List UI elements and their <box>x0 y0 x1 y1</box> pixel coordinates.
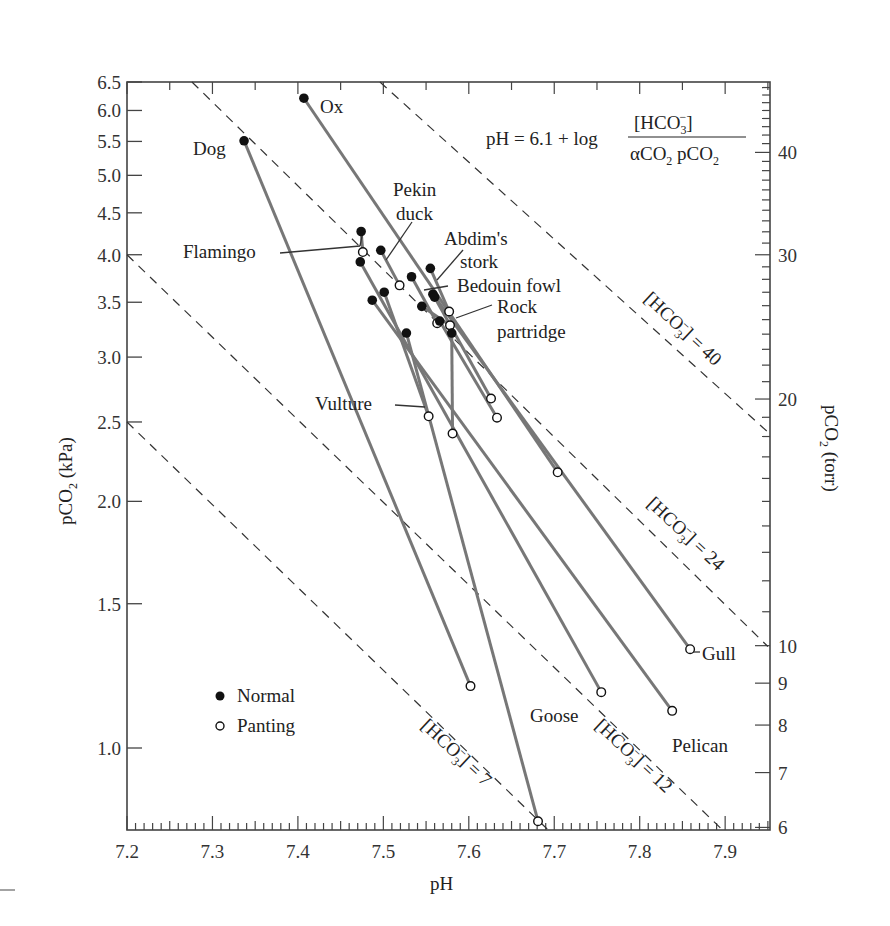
isopleth-label-12: [HCO3−] = 12 <box>589 714 678 800</box>
y-axis-title-right: pCO2 (torr) <box>817 405 842 492</box>
svg-text:7.3: 7.3 <box>201 841 225 862</box>
svg-text:2.0: 2.0 <box>97 491 121 512</box>
label-bedouin-fowl: Bedouin fowl <box>457 275 561 296</box>
legend-normal-marker <box>216 692 225 701</box>
panting-point <box>487 394 496 403</box>
isopleth-lines <box>127 82 768 830</box>
svg-text:8: 8 <box>778 715 788 736</box>
label-goose: Goose <box>530 705 579 726</box>
label-abdims-stork: Abdim's <box>444 228 508 249</box>
legend: Normal Panting <box>216 685 296 736</box>
svg-text:7.6: 7.6 <box>457 841 481 862</box>
label-gull: Gull <box>702 643 736 664</box>
svg-text:10: 10 <box>778 636 797 657</box>
legend-panting-marker <box>216 722 224 730</box>
panting-point <box>448 429 457 438</box>
label-vulture: Vulture <box>315 393 372 414</box>
svg-text:5.5: 5.5 <box>97 131 121 152</box>
panting-point <box>466 682 475 691</box>
panting-point <box>534 817 543 826</box>
chart: 7.27.37.47.57.67.77.87.91.01.52.02.53.03… <box>0 0 890 926</box>
x-axis-title: pH <box>430 873 454 894</box>
svg-text:7.5: 7.5 <box>371 841 395 862</box>
label-flamingo: Flamingo <box>183 241 256 262</box>
label-rock-partridge: Rock <box>497 296 538 317</box>
svg-text:6: 6 <box>778 817 788 838</box>
svg-text:[HCO3−]: [HCO3−] <box>634 110 693 137</box>
panting-point <box>553 468 562 477</box>
svg-text:7.4: 7.4 <box>286 841 310 862</box>
normal-point <box>379 287 389 297</box>
legend-normal-label: Normal <box>237 685 295 706</box>
svg-text:7.2: 7.2 <box>115 841 139 862</box>
svg-text:7: 7 <box>778 763 788 784</box>
plot-frame <box>127 82 770 830</box>
panting-point <box>597 688 606 697</box>
label-pekin-duck-2: duck <box>396 203 433 224</box>
label-dog: Dog <box>193 138 226 159</box>
svg-text:4.0: 4.0 <box>97 245 121 266</box>
normal-point <box>407 272 417 282</box>
y-axis-title-left: pCO2 (kPa) <box>55 437 80 525</box>
normal-point <box>430 292 440 302</box>
normal-point <box>402 328 412 338</box>
panting-point <box>395 281 404 290</box>
series-pelican <box>372 300 672 711</box>
label-pelican: Pelican <box>672 735 728 756</box>
svg-text:1.0: 1.0 <box>97 738 121 759</box>
svg-text:7.8: 7.8 <box>628 841 652 862</box>
isopleth-label-40: [HCO3−] = 40 <box>638 287 727 373</box>
normal-point <box>355 257 365 267</box>
normal-point <box>447 328 457 338</box>
svg-text:7.7: 7.7 <box>542 841 566 862</box>
svg-text:3.5: 3.5 <box>97 292 121 313</box>
series-unlabeled-c <box>435 297 491 398</box>
label-rock-partridge-2: partridge <box>497 321 566 342</box>
data-series <box>239 93 694 825</box>
normal-point <box>367 295 377 305</box>
henderson-hasselbalch-equation: pH = 6.1 + log [HCO3−] αCO2 pCO2 <box>486 110 746 168</box>
panting-point <box>668 707 677 716</box>
isopleth-label-7: [HCO3−] = 7 <box>415 714 497 793</box>
svg-text:9: 9 <box>778 673 788 694</box>
normal-point <box>417 302 427 312</box>
normal-point <box>239 136 249 146</box>
label-abdims-stork-2: stork <box>460 251 499 272</box>
svg-text:3.0: 3.0 <box>97 347 121 368</box>
svg-text:αCO2 pCO2: αCO2 pCO2 <box>630 143 719 168</box>
normal-point <box>299 93 309 103</box>
normal-point <box>435 316 445 326</box>
label-ox: Ox <box>320 96 344 117</box>
svg-text:40: 40 <box>778 142 797 163</box>
legend-panting-label: Panting <box>237 715 296 736</box>
panting-point <box>359 248 368 257</box>
svg-text:5.0: 5.0 <box>97 165 121 186</box>
normal-point <box>376 246 386 256</box>
panting-point <box>424 412 433 421</box>
series-pekin-duck <box>381 250 400 285</box>
normal-point <box>356 227 366 237</box>
svg-text:30: 30 <box>778 245 797 266</box>
series-unlabeled-b <box>452 333 453 434</box>
panting-point <box>493 413 502 422</box>
svg-text:20: 20 <box>778 389 797 410</box>
svg-text:6.0: 6.0 <box>97 100 121 121</box>
svg-text:pH = 6.1 + log: pH = 6.1 + log <box>486 128 598 149</box>
label-pekin-duck: Pekin <box>393 179 437 200</box>
svg-text:6.5: 6.5 <box>97 72 121 93</box>
panting-point <box>446 321 455 330</box>
svg-text:4.5: 4.5 <box>97 203 121 224</box>
svg-text:1.5: 1.5 <box>97 594 121 615</box>
svg-text:2.5: 2.5 <box>97 412 121 433</box>
panting-point <box>445 307 454 316</box>
normal-point <box>426 264 436 274</box>
svg-text:7.9: 7.9 <box>713 841 737 862</box>
